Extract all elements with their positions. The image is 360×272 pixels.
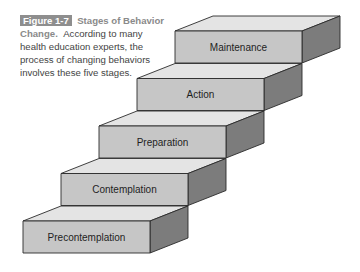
step-label: Contemplation: [92, 184, 156, 195]
step-label: Action: [187, 89, 215, 100]
step-maintenance: Maintenance: [175, 16, 340, 63]
behavior-change-staircase: MaintenanceActionPreparationContemplatio…: [0, 0, 360, 272]
step-precontemplation: Precontemplation: [23, 206, 188, 253]
step-contemplation: Contemplation: [61, 159, 226, 206]
step-preparation: Preparation: [99, 111, 264, 158]
step-label: Maintenance: [210, 42, 268, 53]
step-action: Action: [137, 64, 302, 111]
step-label: Precontemplation: [48, 232, 126, 243]
step-label: Preparation: [137, 137, 189, 148]
